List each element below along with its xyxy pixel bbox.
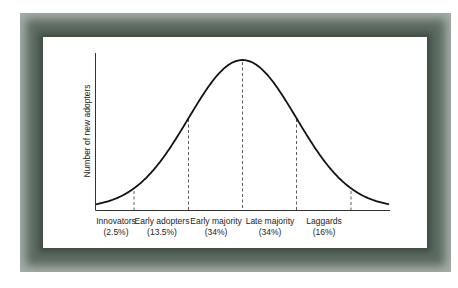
category-label: Early adopters [135, 216, 190, 227]
segment-dividers [134, 62, 351, 210]
category-label: Innovators [96, 216, 136, 227]
category-share: (13.5%) [135, 227, 190, 238]
category-early-majority: Early majority (34%) [190, 216, 241, 238]
category-late-majority: Late majority (34%) [246, 216, 295, 238]
y-axis-label: Number of new adopters [82, 84, 92, 177]
category-laggards: Laggards (16%) [306, 216, 341, 238]
category-innovators: Innovators (2.5%) [96, 216, 136, 238]
category-share: (34%) [190, 227, 241, 238]
bell-curve [96, 60, 389, 204]
category-label: Laggards [306, 216, 341, 227]
category-label: Early majority [190, 216, 241, 227]
category-share: (16%) [306, 227, 341, 238]
category-share: (34%) [246, 227, 295, 238]
category-share: (2.5%) [96, 227, 136, 238]
category-label: Late majority [246, 216, 295, 227]
category-early-adopters: Early adopters (13.5%) [135, 216, 190, 238]
adoption-curve-chart [0, 0, 458, 288]
